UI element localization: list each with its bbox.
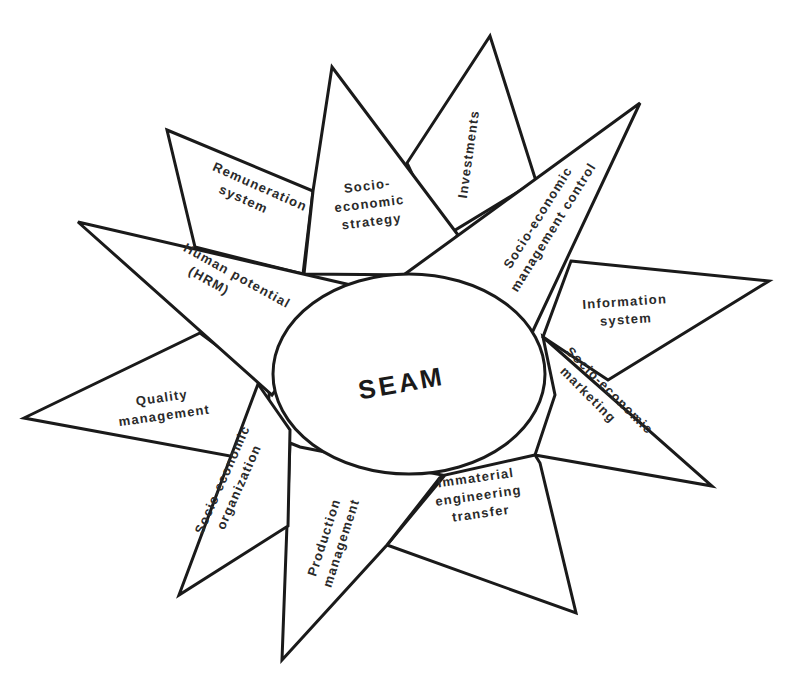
seam-diagram: SEAM Remuneration system Socio- economic… bbox=[0, 0, 793, 684]
